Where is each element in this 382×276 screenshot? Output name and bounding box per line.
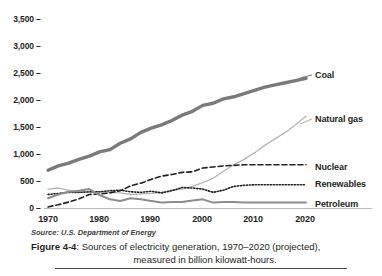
series-label-nuclear: Nuclear — [315, 162, 347, 172]
figure-container: 3,500 – 3,000 – 2,500 – 2,000 – 1,500 – … — [0, 0, 382, 276]
series-label-petroleum: Petroleum — [315, 199, 358, 209]
source-note: Source: U.S. Department of Energy — [31, 228, 156, 237]
series-line-nuclear — [48, 165, 306, 207]
series-label-renewables: Renewables — [315, 179, 366, 189]
caption-line-2: measured in billion kilowatt-hours. — [31, 254, 361, 267]
series-label-coal: Coal — [315, 70, 334, 80]
series-line-coal — [48, 78, 306, 170]
caption-divider — [55, 268, 347, 269]
figure-caption: Figure 4-4: Sources of electricity gener… — [31, 241, 361, 266]
chart-plot-area: 3,500 – 3,000 – 2,500 – 2,000 – 1,500 – … — [0, 0, 382, 232]
caption-line-1: : Sources of electricity generation, 197… — [76, 241, 320, 252]
figure-number: Figure 4-4 — [31, 241, 76, 252]
series-label-natural-gas: Natural gas — [315, 114, 363, 124]
